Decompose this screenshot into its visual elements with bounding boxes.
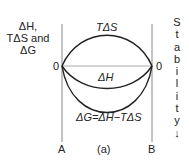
stability-letter: i: [172, 65, 182, 77]
endpoint-a-label: A: [58, 144, 65, 155]
tds-curve: [62, 35, 152, 66]
down-arrow-icon: ↓: [172, 127, 182, 139]
stability-letter: t: [172, 102, 182, 114]
tds-label: TΔS: [96, 22, 117, 33]
stability-letter: l: [172, 77, 182, 89]
stability-letter: b: [172, 53, 182, 65]
y-label-line-3: ΔG: [6, 44, 50, 56]
y-label-line-2: TΔS and: [6, 32, 50, 44]
y-axis-label: ΔH, TΔS and ΔG: [6, 20, 50, 56]
zero-label-left: 0: [53, 61, 59, 72]
stability-label: S t a b i l i t y ↓: [172, 16, 182, 139]
stability-letter: t: [172, 28, 182, 40]
dg-label: ΔG=ΔH−TΔS: [76, 112, 142, 123]
endpoint-b-label: B: [148, 144, 155, 155]
stability-letter: i: [172, 90, 182, 102]
stability-letter: a: [172, 41, 182, 53]
y-label-line-1: ΔH,: [6, 20, 50, 32]
stability-letter: S: [172, 16, 182, 28]
dh-label: ΔH: [98, 72, 113, 83]
panel-label: (a): [97, 144, 110, 155]
zero-label-right: 0: [156, 61, 162, 72]
stability-letter: y: [172, 114, 182, 126]
